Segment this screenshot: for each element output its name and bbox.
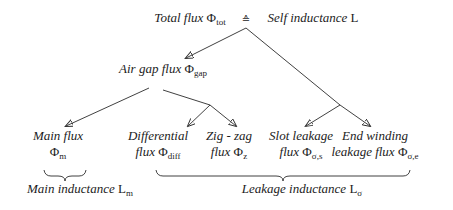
zigzag-flux-label: Zig - zagflux Φz: [206, 128, 252, 164]
slot-leakage-flux-label: Slot leakageflux Φσ,s: [269, 128, 333, 164]
brace-main-inductance: [44, 170, 86, 181]
arrow-junction-to-end-winding: [340, 105, 370, 126]
leakage-inductance-label: Leakage inductance Lσ: [242, 181, 362, 201]
corresponds-symbol: ≙: [242, 11, 250, 28]
flux-inductance-diagram: Total flux Φtot≙Self inductance LAir gap…: [0, 0, 453, 210]
arrow-junction-to-zigzag: [210, 105, 236, 126]
line-root-to-right-junction: [246, 28, 340, 105]
arrow-junction-to-differential: [188, 105, 210, 126]
arrow-junction-to-slot-leakage: [306, 105, 340, 126]
arrow-root-to-airgap: [186, 28, 246, 58]
main-flux-label: Main fluxΦm: [33, 128, 83, 164]
connector-arrows: [0, 0, 453, 210]
main-inductance-label: Main inductance Lm: [27, 181, 133, 201]
self-inductance-label: Self inductance L: [268, 10, 359, 26]
air-gap-flux-label: Air gap flux Φgap: [119, 61, 207, 81]
brace-leakage-inductance: [156, 170, 410, 181]
arrow-airgap-to-main-flux: [66, 88, 149, 126]
differential-flux-label: Differentialflux Φdiff: [128, 128, 188, 164]
end-winding-flux-label: End windingleakage flux Φσ,e: [331, 128, 418, 164]
total-flux-label: Total flux Φtot: [154, 10, 225, 30]
line-airgap-to-mid-junction: [163, 90, 210, 105]
